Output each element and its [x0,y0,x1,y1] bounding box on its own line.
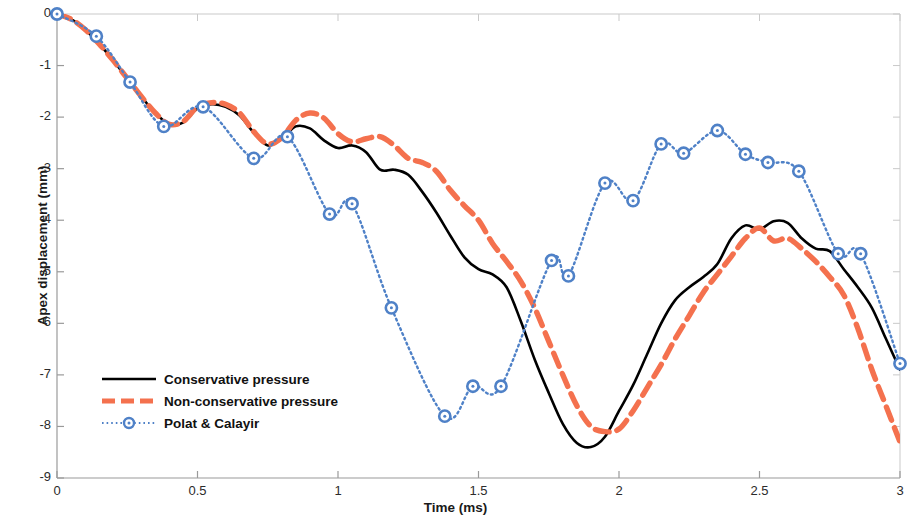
y-axis-tick-label: -8 [17,417,51,432]
legend-item-non-conservative: Non-conservative pressure [100,390,352,412]
data-point-marker-center [129,81,132,84]
data-point-marker-center [499,385,502,388]
data-point-marker-center [286,135,289,138]
data-point-marker-center [202,105,205,108]
x-axis-tick-label: 0.5 [178,483,218,498]
x-axis-tick-label: 1 [318,483,358,498]
x-axis-tick-label: 0 [37,483,77,498]
y-axis-tick-label: -5 [17,263,51,278]
series-line-2 [57,14,900,419]
data-point-marker-center [56,13,59,16]
data-point-marker-center [95,35,98,38]
y-axis-tick-label: -6 [17,314,51,329]
data-point-marker-center [252,157,255,160]
data-point-marker-center [716,129,719,132]
plot-canvas [0,0,911,521]
y-axis-tick-label: -9 [17,469,51,484]
x-axis-tick-label: 3 [880,483,911,498]
data-point-marker-center [443,415,446,418]
legend-swatch-dotted-marker-line [100,413,158,433]
y-axis-tick-label: -1 [17,57,51,72]
x-axis-label: Time (ms) [0,500,911,515]
y-axis-tick-label: -2 [17,108,51,123]
legend-label-conservative: Conservative pressure [158,372,310,387]
legend-label-non-conservative: Non-conservative pressure [158,394,338,409]
legend-swatch-dashed-line [100,391,158,411]
legend-swatch-solid-line [100,369,158,389]
y-axis-tick-label: -7 [17,366,51,381]
data-point-marker-center [328,213,331,216]
y-axis-tick-label: -3 [17,160,51,175]
data-point-marker-center [682,152,685,155]
data-point-marker-center [603,182,606,185]
y-axis-tick-label: 0 [17,5,51,20]
data-point-marker-center [660,142,663,145]
data-point-marker-center [744,153,747,156]
data-point-marker-center [567,274,570,277]
y-axis-label: Apex displacement (mm) [35,116,50,376]
data-point-marker-center [471,385,474,388]
data-point-marker-center [837,252,840,255]
data-point-marker-center [859,252,862,255]
data-point-marker-center [632,199,635,202]
x-axis-tick-label: 2 [599,483,639,498]
legend-item-polat-calayir: Polat & Calayir [100,412,352,434]
data-point-marker-center [351,202,354,205]
data-point-marker-center [797,170,800,173]
data-point-marker-center [899,362,902,365]
legend-item-conservative: Conservative pressure [100,368,352,390]
legend-label-polat-calayir: Polat & Calayir [158,416,259,431]
data-point-marker-center [162,125,165,128]
y-axis-tick-label: -4 [17,211,51,226]
x-axis-tick-label: 2.5 [740,483,780,498]
x-axis-tick-label: 1.5 [459,483,499,498]
data-point-marker-center [390,306,393,309]
data-point-marker-center [550,259,553,262]
legend: Conservative pressure Non-conservative p… [100,368,352,434]
data-point-marker-center [766,161,769,164]
chart-figure: Apex displacement (mm) Time (ms) 0-1-2-3… [0,0,911,521]
